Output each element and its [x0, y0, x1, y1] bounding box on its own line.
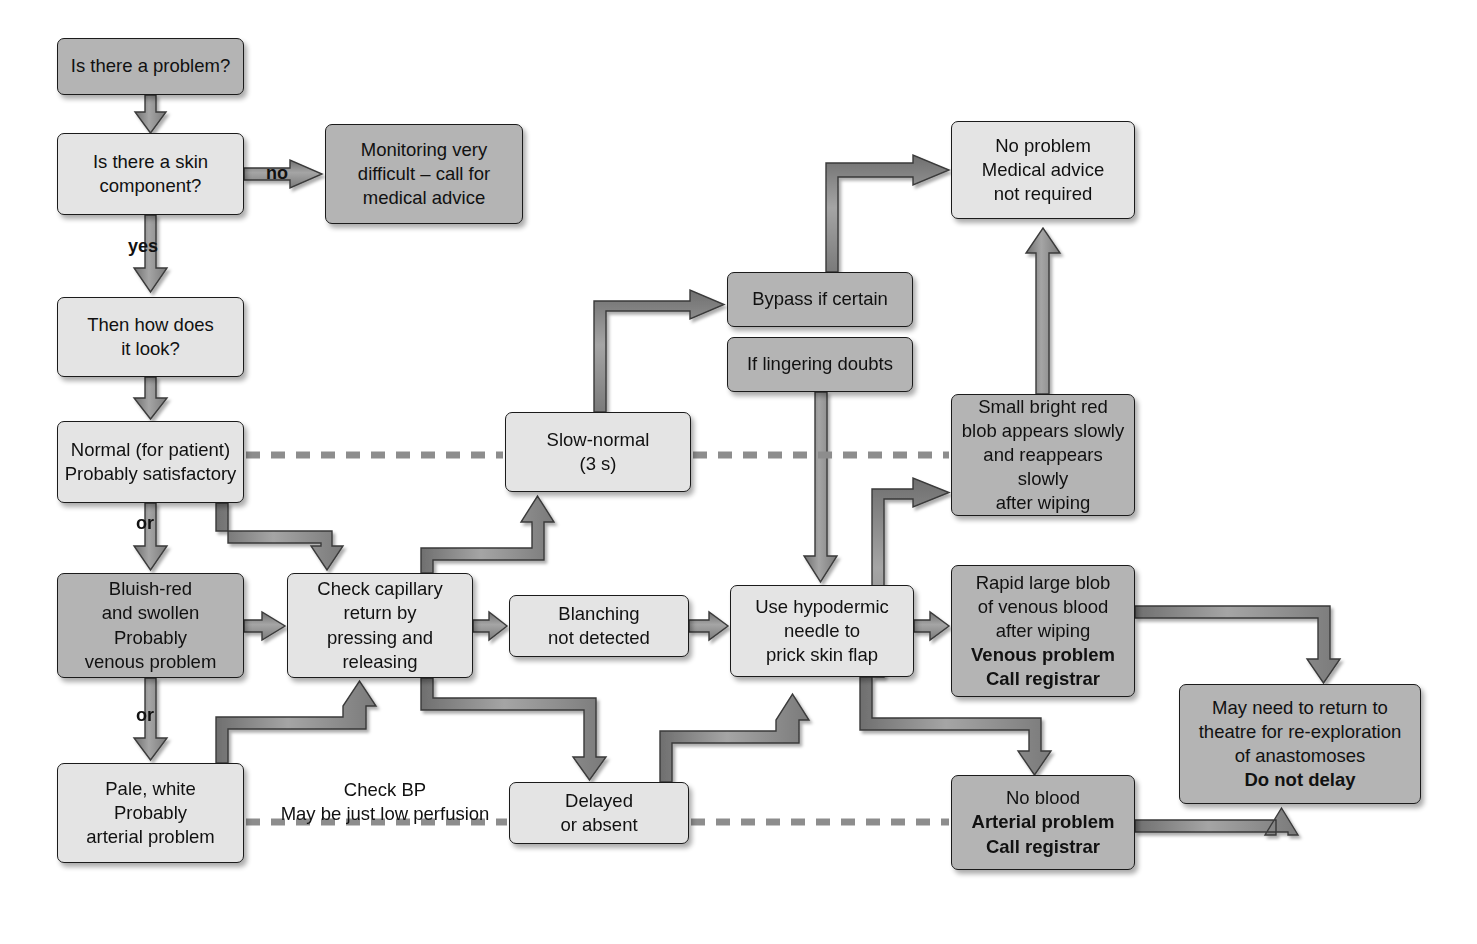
node-check-capillary[interactable]: Check capillary return by pressing and r…	[287, 573, 473, 678]
node-label: Is there a problem?	[64, 54, 237, 78]
node-is-problem[interactable]: Is there a problem?	[57, 38, 244, 95]
node-label: May need to return totheatre for re-expl…	[1186, 696, 1414, 792]
node-label: Small bright red blob appears slowly and…	[958, 395, 1128, 515]
node-label: Slow-normal (3 s)	[512, 428, 684, 476]
edge-label-no: no	[266, 163, 288, 184]
connector-check-capillary-to-blanching	[473, 612, 507, 640]
node-label: No bloodArterial problemCall registrar	[958, 786, 1128, 858]
edge-label-or-2: or	[136, 705, 154, 726]
node-hypodermic[interactable]: Use hypodermic needle to prick skin flap	[730, 585, 914, 677]
connector-rapid-blob-to-theatre	[1135, 606, 1340, 683]
node-monitoring[interactable]: Monitoring very difficult – call for med…	[325, 124, 523, 224]
connector-slow-normal-to-bypass	[594, 290, 724, 412]
connector-lingering-to-hypodermic	[804, 392, 837, 582]
node-pale-white[interactable]: Pale, white Probably arterial problem	[57, 763, 244, 863]
node-label: Delayed or absent	[516, 789, 682, 837]
connector-delayed-to-hypodermic	[660, 694, 809, 782]
connector-pale-white-to-check-capillary	[216, 681, 376, 763]
node-bluish-red[interactable]: Bluish-red and swollen Probably venous p…	[57, 573, 244, 678]
connector-normal-to-check-capillary	[216, 503, 343, 570]
node-label: Then how does it look?	[64, 313, 237, 361]
connector-bluish-red-to-check-capillary	[244, 612, 285, 640]
node-skin-component[interactable]: Is there a skin component?	[57, 133, 244, 215]
node-small-blob[interactable]: Small bright red blob appears slowly and…	[951, 394, 1135, 516]
edge-label-yes: yes	[128, 236, 158, 257]
note-check-bp: Check BP May be just low perfusion	[270, 778, 500, 826]
flowchart-canvas: Is there a problem? Is there a skin comp…	[0, 0, 1477, 944]
node-delayed[interactable]: Delayed or absent	[509, 782, 689, 844]
node-label: Pale, white Probably arterial problem	[64, 777, 237, 849]
connector-check-capillary-to-slow-normal	[421, 496, 554, 573]
node-label: Bluish-red and swollen Probably venous p…	[64, 577, 237, 673]
node-rapid-blob[interactable]: Rapid large blobof venous bloodafter wip…	[951, 565, 1135, 697]
node-theatre[interactable]: May need to return totheatre for re-expl…	[1179, 684, 1421, 804]
node-label: If lingering doubts	[734, 352, 906, 376]
node-normal[interactable]: Normal (for patient) Probably satisfacto…	[57, 421, 244, 503]
node-label: Use hypodermic needle to prick skin flap	[737, 595, 907, 667]
node-label: Check capillary return by pressing and r…	[294, 577, 466, 673]
connector-is-problem-to-skin-component	[135, 95, 166, 133]
node-label: Rapid large blobof venous bloodafter wip…	[958, 571, 1128, 691]
connector-hypodermic-to-rapid-blob	[914, 612, 949, 640]
node-how-look[interactable]: Then how does it look?	[57, 297, 244, 377]
node-label: Is there a skin component?	[64, 150, 237, 198]
node-no-problem[interactable]: No problem Medical advice not required	[951, 121, 1135, 219]
connector-small-blob-to-no-problem	[1026, 228, 1060, 394]
edge-label-or-1: or	[136, 513, 154, 534]
node-label: Blanching not detected	[516, 602, 682, 650]
node-bypass[interactable]: Bypass if certain	[727, 272, 913, 327]
node-slow-normal[interactable]: Slow-normal (3 s)	[505, 412, 691, 492]
connector-bypass-to-no-problem	[826, 155, 949, 272]
node-label: Normal (for patient) Probably satisfacto…	[64, 438, 237, 486]
connector-how-look-to-normal	[134, 377, 167, 419]
node-blanching[interactable]: Blanching not detected	[509, 595, 689, 657]
node-label: Monitoring very difficult – call for med…	[332, 138, 516, 210]
node-label: No problem Medical advice not required	[958, 134, 1128, 206]
node-label: Bypass if certain	[734, 287, 906, 311]
node-no-blood[interactable]: No bloodArterial problemCall registrar	[951, 775, 1135, 870]
connector-blanching-to-hypodermic	[689, 612, 728, 640]
node-lingering[interactable]: If lingering doubts	[727, 337, 913, 392]
